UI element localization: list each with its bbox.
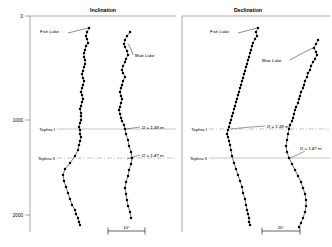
fish-lake-leader-left: [68, 28, 88, 33]
panel-title-declination: Declination: [234, 7, 262, 13]
figure-container: Inclination 0 1000 2000 Tephra I Tephra …: [0, 0, 332, 247]
blue-lake-leader-right: [290, 48, 313, 60]
fish-lake-leader-right: [238, 28, 257, 33]
depth-1-leader-right: [231, 126, 265, 129]
series-fish-lake-declination: Fish Lake: [210, 27, 259, 227]
depth-1-label-left: D = 1.38 m: [142, 125, 164, 130]
blue-lake-points-right: [285, 39, 320, 229]
fish-lake-points-right: [226, 27, 260, 227]
depth-annotations-left: D = 1.38 m D = 1.47 m: [126, 125, 164, 159]
depth-2-leader-left: [127, 155, 140, 159]
depth-2-leader-right: [290, 151, 305, 158]
tephra-2-label-right: Tephra II: [190, 156, 207, 161]
panel-inclination: Inclination 0 1000 2000 Tephra I Tephra …: [13, 7, 176, 235]
blue-lake-label-right: Blue Lake: [262, 58, 282, 63]
tephra-1-label-left: Tephra I: [39, 127, 55, 132]
blue-lake-label-left: Blue Lake: [135, 53, 155, 58]
y-tick-label-2000: 2000: [13, 213, 24, 218]
tephra-1-label-right: Tephra I: [191, 127, 207, 132]
blue-lake-leader-left: [128, 44, 133, 55]
scalebar-right: 20°: [262, 225, 300, 235]
panel-title-inclination: Inclination: [90, 7, 116, 13]
paleomagnetic-figure: Inclination 0 1000 2000 Tephra I Tephra …: [0, 0, 332, 247]
series-blue-lake-declination: Blue Lake: [262, 39, 319, 229]
y-tick-label-0: 0: [20, 14, 23, 19]
fish-lake-label-left: Fish Lake: [40, 29, 60, 34]
y-ticks-left: 0 1000 2000: [13, 14, 30, 218]
fish-lake-label-right: Fish Lake: [210, 29, 230, 34]
fish-lake-line-right: [227, 28, 258, 225]
tephra-2-label-left: Tephra II: [38, 156, 55, 161]
scalebar-label-right: 20°: [278, 225, 285, 230]
y-tick-label-1000: 1000: [13, 118, 24, 123]
fish-lake-points-left: [62, 27, 91, 227]
depth-1-label-right: D = 1.38 m: [267, 124, 289, 129]
depth-2-label-left: D = 1.47 m: [142, 153, 164, 158]
blue-lake-line-right: [286, 40, 318, 227]
panel-declination: Declination Tephra I Tephra II: [182, 7, 330, 235]
depth-1-leader-left: [126, 127, 140, 129]
scalebar-left: 10°: [108, 225, 145, 235]
scalebar-label-left: 10°: [123, 225, 130, 230]
depth-2-label-right: D = 1.47 m: [300, 146, 322, 151]
